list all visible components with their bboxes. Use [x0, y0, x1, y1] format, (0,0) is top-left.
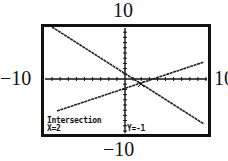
y-readout: Y=-1: [127, 125, 145, 133]
xmin-label: −10: [0, 68, 31, 88]
ymax-label: 10: [113, 0, 133, 20]
ymin-label: −10: [103, 139, 134, 159]
xmax-label: 10: [214, 68, 228, 88]
x-readout: X=2: [47, 125, 61, 133]
calculator-graph-screen: Intersection X=2 Y=-1: [41, 24, 211, 137]
